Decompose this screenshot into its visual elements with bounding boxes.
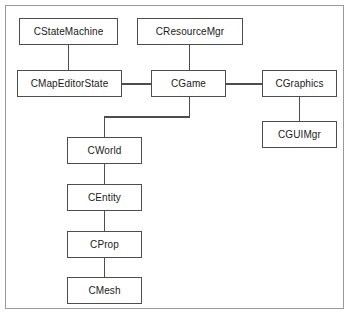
class-label: CGUIMgr xyxy=(278,130,321,140)
class-node-cgame: CGame xyxy=(151,70,226,97)
class-node-cresourcemgr: CResourceMgr xyxy=(137,18,243,45)
class-label: CEntity xyxy=(88,193,121,203)
class-label: CGraphics xyxy=(275,79,323,89)
class-node-cstatemachine: CStateMachine xyxy=(19,18,118,45)
class-node-cmesh: CMesh xyxy=(67,277,142,304)
class-label: CGame xyxy=(171,79,206,89)
connector-layer xyxy=(0,0,351,315)
edge-cgame-cworld xyxy=(105,97,190,137)
class-node-cmapeditorstate: CMapEditorState xyxy=(17,70,122,97)
class-node-cworld: CWorld xyxy=(67,137,142,164)
class-node-cprop: CProp xyxy=(67,231,142,258)
class-label: CResourceMgr xyxy=(156,27,224,37)
class-node-cgraphics: CGraphics xyxy=(262,70,337,97)
class-label: CWorld xyxy=(88,146,122,156)
class-label: CMesh xyxy=(88,286,120,296)
class-node-centity: CEntity xyxy=(67,184,142,211)
class-node-cguimgr: CGUIMgr xyxy=(262,121,337,148)
class-label: CProp xyxy=(90,240,119,250)
class-label: CStateMachine xyxy=(34,27,104,37)
class-label: CMapEditorState xyxy=(31,79,109,89)
class-diagram: CStateMachine CResourceMgr CMapEditorSta… xyxy=(0,0,351,315)
